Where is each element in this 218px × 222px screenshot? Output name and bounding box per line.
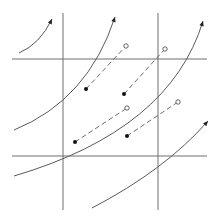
open-circle-icon xyxy=(163,47,167,51)
filled-dot-icon xyxy=(125,134,129,138)
open-circle-icon xyxy=(125,106,129,110)
dashed-vector-3 xyxy=(75,108,127,142)
open-circle-icon xyxy=(176,100,180,104)
filled-dot-icon xyxy=(122,92,126,96)
open-circle-icon xyxy=(124,44,128,48)
dashed-vector-1 xyxy=(86,46,126,89)
filled-dot-icon xyxy=(84,87,88,91)
phase-diagram xyxy=(0,0,218,222)
arrowhead-icon xyxy=(111,17,115,22)
curve-3 xyxy=(14,21,203,176)
curve-4 xyxy=(92,121,208,208)
flow-curves xyxy=(14,17,208,208)
arrowhead-icon xyxy=(199,21,203,26)
dashed-vector-4 xyxy=(127,102,178,136)
filled-dot-icon xyxy=(73,140,77,144)
dashed-vector-2 xyxy=(124,49,165,94)
grid-lines xyxy=(12,13,207,210)
curve-1 xyxy=(19,19,52,53)
